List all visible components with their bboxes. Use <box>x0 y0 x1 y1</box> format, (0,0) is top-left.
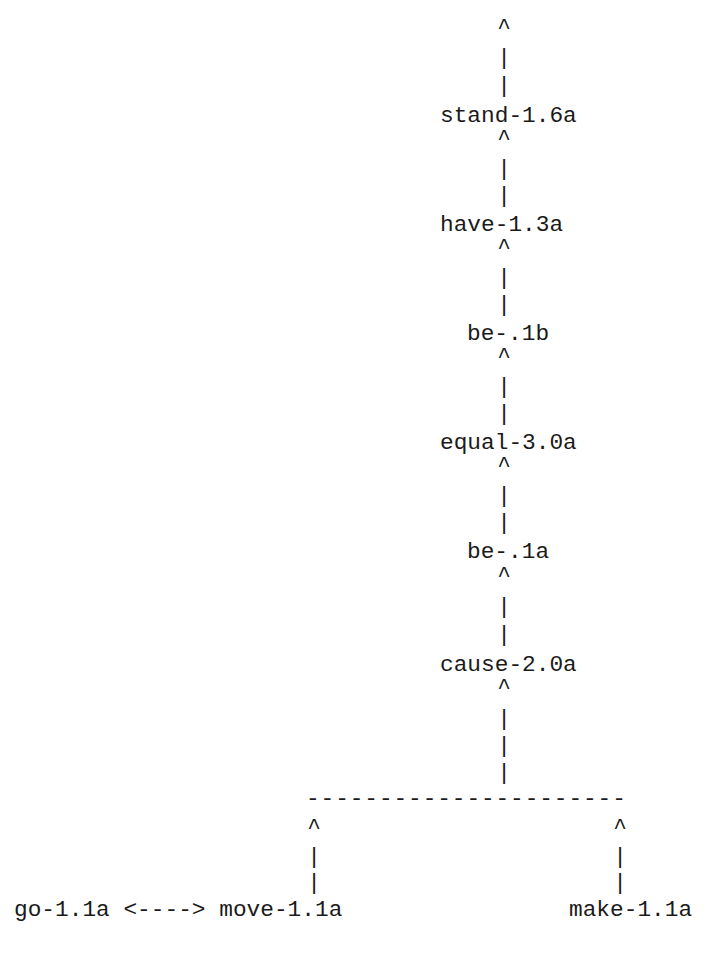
connector-bar: | <box>497 596 511 619</box>
arrow-up-icon: ^ <box>497 17 511 40</box>
connector-bar: | <box>307 872 321 895</box>
connector-bar: | <box>497 185 511 208</box>
arrow-up-icon: ^ <box>497 237 511 260</box>
connector-bar: | <box>613 846 627 869</box>
connector-bar: | <box>497 267 511 290</box>
arrow-up-icon: ^ <box>497 455 511 478</box>
connector-bar: | <box>497 624 511 647</box>
node-be-1a: be-.1a <box>467 541 549 564</box>
connector-bar: | <box>497 376 511 399</box>
connector-bar: | <box>497 294 511 317</box>
connector-bar: | <box>497 512 511 535</box>
node-stand-1-6a: stand-1.6a <box>440 105 577 128</box>
node-equal-3-0a: equal-3.0a <box>440 432 577 455</box>
connector-bar: | <box>497 762 511 785</box>
connector-bar: | <box>497 735 511 758</box>
connector-bar: | <box>613 872 627 895</box>
node-have-1-3a: have-1.3a <box>440 214 563 237</box>
connector-bar: | <box>497 708 511 731</box>
arrow-up-icon: ^ <box>497 565 511 588</box>
connector-bar: | <box>497 75 511 98</box>
leaf-go-move-pair: go-1.1a <----> move-1.1a <box>14 899 342 922</box>
branch-line: ---------------------- <box>306 788 627 811</box>
arrow-up-icon: ^ <box>497 128 511 151</box>
connector-bar: | <box>497 485 511 508</box>
connector-bar: | <box>497 47 511 70</box>
arrow-up-icon: ^ <box>497 677 511 700</box>
connector-bar: | <box>497 158 511 181</box>
arrow-up-icon: ^ <box>497 346 511 369</box>
connector-bar: | <box>307 846 321 869</box>
verb-hierarchy-diagram: ^ | | stand-1.6a ^ | | have-1.3a ^ | | b… <box>0 0 715 953</box>
node-be-1b: be-.1b <box>467 323 549 346</box>
leaf-make-1-1a: make-1.1a <box>569 899 692 922</box>
arrow-up-icon: ^ <box>613 817 627 840</box>
connector-bar: | <box>497 403 511 426</box>
arrow-up-icon: ^ <box>307 817 321 840</box>
node-cause-2-0a: cause-2.0a <box>440 654 577 677</box>
